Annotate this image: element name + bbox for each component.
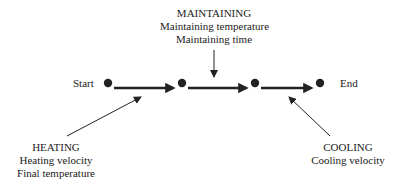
maintaining-title: MAINTAINING	[160, 7, 268, 20]
cooling-block: COOLING Cooling velocity	[308, 141, 388, 167]
maintaining-temperature-label: Maintaining temperature	[160, 20, 268, 33]
maintaining-block: MAINTAINING Maintaining temperature Main…	[160, 7, 268, 46]
node-2	[178, 79, 186, 87]
cooling-pointer-arrow	[289, 97, 330, 136]
start-node	[104, 79, 112, 87]
maintaining-time-label: Maintaining time	[160, 33, 268, 46]
heating-velocity-label: Heating velocity	[14, 154, 98, 167]
start-label: Start	[73, 77, 94, 90]
cooling-title: COOLING	[308, 141, 388, 154]
end-label: End	[340, 77, 358, 90]
heating-title: HEATING	[14, 141, 98, 154]
heating-block: HEATING Heating velocity Final temperatu…	[14, 141, 98, 180]
final-temperature-label: Final temperature	[14, 167, 98, 180]
heating-pointer-arrow	[67, 97, 141, 136]
cooling-velocity-label: Cooling velocity	[308, 154, 388, 167]
node-3	[251, 79, 259, 87]
end-node	[316, 79, 324, 87]
